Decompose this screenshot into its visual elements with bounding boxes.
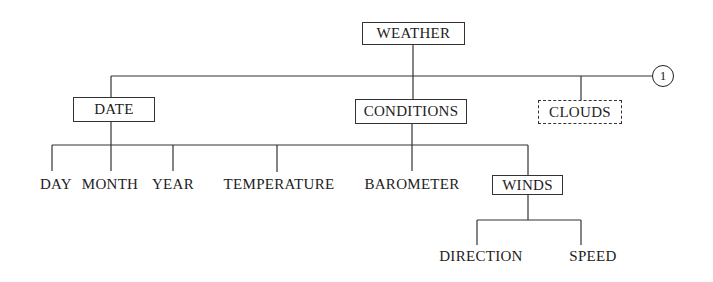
leaf-barometer: BAROMETER: [364, 176, 459, 193]
node-conditions: CONDITIONS: [355, 99, 467, 124]
leaf-month: MONTH: [82, 176, 139, 193]
leaf-direction: DIRECTION: [439, 248, 523, 265]
node-date: DATE: [73, 97, 155, 122]
leaf-day: DAY: [40, 176, 72, 193]
node-label: WINDS: [502, 177, 553, 194]
node-label: DATE: [94, 101, 134, 118]
node-label: CONDITIONS: [364, 103, 459, 120]
connector-label: 1: [660, 68, 667, 84]
leaf-speed: SPEED: [569, 248, 616, 265]
leaf-temperature: TEMPERATURE: [224, 176, 335, 193]
node-clouds: CLOUDS: [538, 100, 622, 124]
connector-lines: [0, 0, 713, 282]
node-label: CLOUDS: [549, 104, 611, 121]
node-label: WEATHER: [377, 25, 451, 42]
node-winds: WINDS: [492, 175, 563, 195]
off-page-connector: 1: [652, 65, 674, 87]
leaf-year: YEAR: [152, 176, 194, 193]
node-weather: WEATHER: [362, 22, 465, 45]
